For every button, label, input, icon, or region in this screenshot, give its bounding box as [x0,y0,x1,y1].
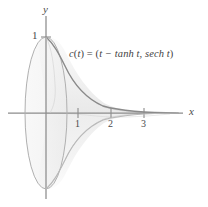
equation-y-component: sech t [145,48,170,59]
curve-equation-label: c(t) = (t − tanh t, sech t) [69,49,173,60]
tractrix-figure: y x 1 1 2 3 c(t) = (t − tanh t, sech t) [0,0,208,207]
x-tick-label-1: 1 [75,119,80,129]
equation-equals: = [87,48,93,59]
equation-close-paren: ) [170,48,174,59]
equation-paren-close-arg: ) [80,48,84,59]
x-axis-label: x [189,106,194,117]
x-tick-label-2: 2 [108,119,113,129]
equation-x-component: t − tanh t [99,48,139,59]
x-tick-label-3: 3 [141,119,146,129]
y-axis-unit-label: 1 [32,30,38,41]
y-axis-label: y [43,4,48,15]
